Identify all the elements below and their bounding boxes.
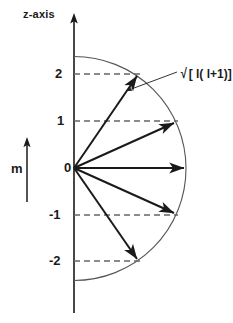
tick-label-minus-2: -2 — [49, 253, 61, 268]
m-label: m — [11, 161, 23, 176]
m-direction-arrow — [23, 137, 30, 202]
radius-annotation-label: √[ l( l+1)] — [180, 65, 232, 81]
tick-label-zero: 0 — [64, 160, 71, 175]
figure-canvas — [0, 0, 233, 323]
angular-momentum-vectors — [74, 76, 184, 259]
z-axis-label: z-axis — [23, 8, 55, 20]
sqrt-icon: √ — [181, 65, 187, 81]
vector-model-figure: z-axis m 2 1 0 -1 -2 √[ l( l+1)] — [0, 0, 233, 323]
tick-label-plus-1: 1 — [57, 113, 64, 128]
radius-annotation-body: [ l( l+1)] — [189, 67, 232, 81]
tick-label-plus-2: 2 — [55, 66, 62, 81]
tick-label-minus-1: -1 — [49, 207, 61, 222]
